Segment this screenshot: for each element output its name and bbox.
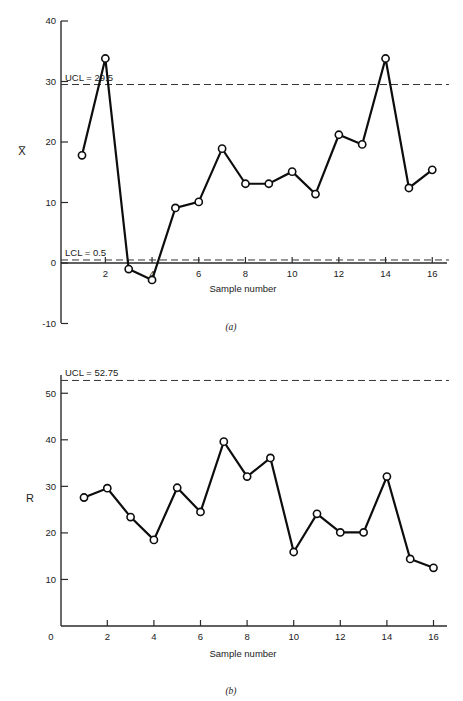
data-point-marker: [242, 180, 249, 187]
control-limit-label-lcl: LCL = 0.5: [65, 247, 106, 258]
panel-caption-a: (a): [225, 322, 236, 333]
data-point-marker: [405, 184, 412, 191]
data-point-marker: [80, 494, 87, 501]
y-tick-label: 30: [45, 481, 56, 492]
y-tick-label: 20: [45, 527, 56, 538]
x-tick-label: 6: [196, 268, 201, 279]
xbar-chart-panel: -10010203040 246810121416 UCL = 29.5LCL …: [0, 0, 463, 350]
y-tick-label: 40: [45, 434, 56, 445]
data-point-marker: [335, 131, 342, 138]
data-point-marker: [337, 529, 344, 536]
x-tick-label: 8: [243, 268, 248, 279]
x-tick-label: 2: [103, 268, 108, 279]
data-point-marker: [172, 204, 179, 211]
x-tick-label: 2: [105, 631, 110, 642]
x-tick-label: 16: [428, 631, 439, 642]
data-point-marker: [429, 166, 436, 173]
x-axis-title: Sample number: [209, 648, 276, 659]
data-point-marker: [312, 190, 319, 197]
x-tick-label: 12: [335, 631, 346, 642]
data-point-group: [80, 438, 437, 571]
data-point-marker: [383, 473, 390, 480]
data-point-marker: [125, 265, 132, 272]
y-tick-label: 10: [45, 574, 56, 585]
y-tick-label: 50: [45, 388, 56, 399]
data-point-marker: [78, 152, 85, 159]
data-point-marker: [289, 168, 296, 175]
control-limit-group: UCL = 52.75: [61, 367, 449, 380]
control-limit-label-ucl: UCL = 29.5: [65, 72, 113, 83]
data-point-marker: [219, 145, 226, 152]
x-tick-group: 0246810121416: [48, 620, 438, 642]
data-point-marker: [150, 536, 157, 543]
control-chart-figure: -10010203040 246810121416 UCL = 29.5LCL …: [0, 0, 463, 701]
range-chart-svg: 1020304050 0246810121416 UCL = 52.75 R S…: [0, 350, 463, 701]
y-tick-label: 10: [45, 197, 56, 208]
control-limit-group: UCL = 29.5LCL = 0.5: [61, 72, 449, 260]
data-point-marker: [359, 141, 366, 148]
y-tick-label: -10: [42, 318, 56, 329]
x-tick-label: 4: [151, 631, 156, 642]
y-tick-label: 0: [51, 257, 56, 268]
data-series-line: [82, 59, 432, 280]
xbar-chart-svg: -10010203040 246810121416 UCL = 29.5LCL …: [0, 0, 463, 350]
data-point-marker: [267, 454, 274, 461]
y-tick-label: 20: [45, 136, 56, 147]
data-point-marker: [382, 55, 389, 62]
x-tick-label: 0: [48, 631, 53, 642]
data-point-marker: [360, 529, 367, 536]
panel-caption-b: (b): [225, 686, 236, 697]
x-tick-label: 10: [288, 631, 299, 642]
data-point-marker: [195, 198, 202, 205]
data-point-group: [78, 55, 435, 284]
data-point-marker: [290, 548, 297, 555]
data-point-marker: [265, 180, 272, 187]
data-series-line: [84, 442, 434, 568]
x-tick-label: 16: [427, 268, 438, 279]
data-point-marker: [407, 555, 414, 562]
data-point-marker: [127, 513, 134, 520]
data-point-marker: [148, 276, 155, 283]
x-tick-label: 8: [244, 631, 249, 642]
data-point-marker: [430, 564, 437, 571]
x-tick-label: 10: [287, 268, 298, 279]
control-limit-label-ucl: UCL = 52.75: [65, 367, 118, 378]
data-point-marker: [174, 484, 181, 491]
data-point-marker: [104, 485, 111, 492]
range-chart-panel: 1020304050 0246810121416 UCL = 52.75 R S…: [0, 350, 463, 701]
y-tick-label: 30: [45, 76, 56, 87]
x-tick-label: 14: [382, 631, 393, 642]
x-tick-label: 14: [380, 268, 391, 279]
data-point-marker: [220, 438, 227, 445]
y-axis-title-xbar: X̅: [18, 145, 26, 157]
data-point-marker: [244, 473, 251, 480]
data-point-marker: [313, 510, 320, 517]
y-axis-title-range: R: [26, 492, 34, 504]
x-tick-label: 12: [334, 268, 345, 279]
y-tick-group: -10010203040: [42, 15, 68, 329]
y-tick-group: 1020304050: [45, 388, 68, 585]
x-axis-title: Sample number: [209, 283, 276, 294]
y-tick-label: 40: [45, 15, 56, 26]
data-point-marker: [197, 508, 204, 515]
data-point-marker: [102, 55, 109, 62]
x-tick-label: 6: [198, 631, 203, 642]
